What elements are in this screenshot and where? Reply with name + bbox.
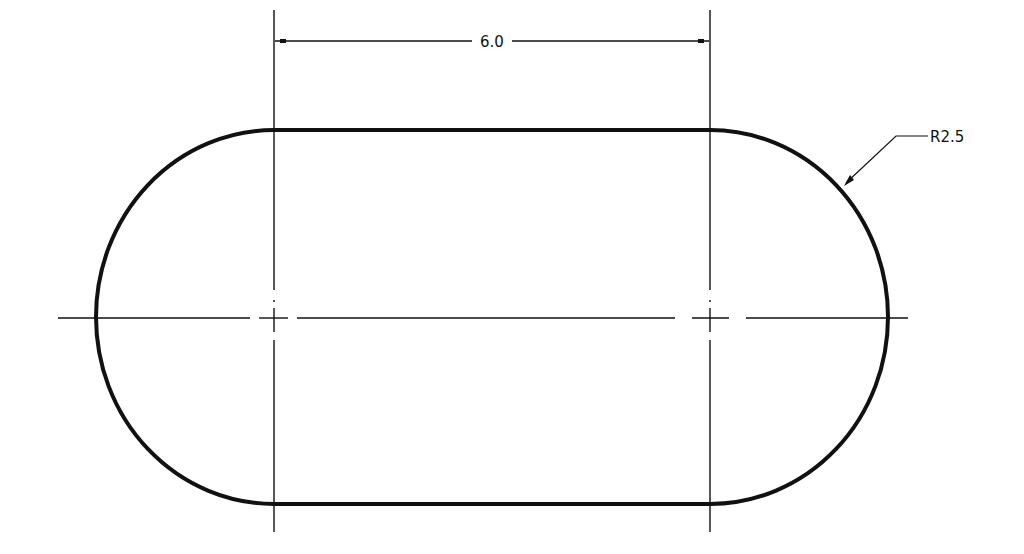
- center-distance-label: 6.0: [480, 33, 504, 51]
- cad-drawing: 6.0 R2.5: [0, 0, 1024, 554]
- dimension-arrow-left-icon: [280, 39, 286, 43]
- radius-label: R2.5: [930, 128, 964, 146]
- center-distance-dimension: 6.0: [275, 33, 709, 51]
- slot-outline: [96, 130, 888, 504]
- radius-dimension: R2.5: [844, 128, 964, 186]
- dimension-arrow-right-icon: [698, 39, 704, 43]
